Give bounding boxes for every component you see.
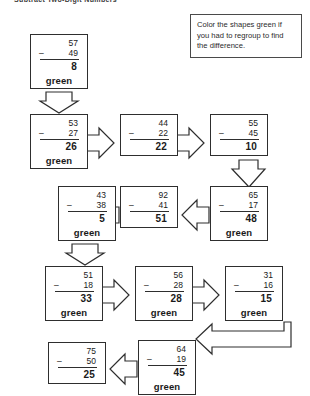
subtrahend: 19 <box>177 354 188 364</box>
problem-calculation: 31 – 16 15 <box>226 267 282 307</box>
arrow-down-p1-to-p2 <box>40 92 80 114</box>
calculation-rule <box>40 139 79 140</box>
problem-box-p12[interactable]: 75 – 50 25 <box>48 342 106 384</box>
problem-calculation: 75 – 50 25 <box>49 343 105 383</box>
minuend: 92 <box>128 190 170 200</box>
problem-calculation: 57 – 49 8 <box>31 35 87 75</box>
green-label: green <box>46 307 102 320</box>
minuend: 65 <box>218 190 260 200</box>
calculation-rule <box>130 139 169 140</box>
arrow-right-p3-to-p4 <box>177 126 205 162</box>
minuend: 44 <box>128 118 170 128</box>
subtraction-line: – 45 <box>218 128 260 138</box>
green-label: green <box>31 155 87 168</box>
green-label: green <box>136 307 192 320</box>
arrow-right-p2-to-p3 <box>87 126 115 162</box>
problem-box-p5[interactable]: 65 – 17 48 green <box>210 186 268 241</box>
subtraction-line: – 19 <box>146 354 188 364</box>
problem-calculation: 92 – 41 51 <box>121 187 177 227</box>
minuend: 53 <box>38 118 80 128</box>
problem-calculation: 64 – 19 45 <box>139 341 195 381</box>
calculation-rule <box>58 367 97 368</box>
problem-calculation: 44 – 22 22 <box>121 115 177 155</box>
subtraction-line: – 22 <box>128 128 170 138</box>
minuend: 64 <box>146 344 188 354</box>
subtrahend: 18 <box>84 280 95 290</box>
problem-calculation: 51 – 18 33 <box>46 267 102 307</box>
problem-calculation: 43 – 38 5 <box>59 187 115 227</box>
arrow-left-p11-to-p12 <box>110 352 138 388</box>
calculation-rule <box>55 291 94 292</box>
problem-calculation: 65 – 17 48 <box>211 187 267 227</box>
problem-box-p4[interactable]: 55 – 45 10 <box>210 114 268 156</box>
subtraction-line: – 41 <box>128 200 170 210</box>
problem-box-p2[interactable]: 53 – 27 26 green <box>30 114 88 169</box>
answer: 8 <box>38 61 80 73</box>
minuend: 51 <box>53 270 95 280</box>
calculation-rule <box>220 139 259 140</box>
minuend: 75 <box>56 346 98 356</box>
subtrahend: 28 <box>174 280 185 290</box>
minus-sign-icon: – <box>128 128 134 138</box>
answer: 10 <box>218 141 260 153</box>
minus-sign-icon: – <box>53 280 59 290</box>
calculation-rule <box>68 211 107 212</box>
calculation-rule <box>148 365 187 366</box>
subtrahend: 45 <box>249 128 260 138</box>
minuend: 57 <box>38 38 80 48</box>
subtrahend: 16 <box>264 280 275 290</box>
subtraction-line: – 27 <box>38 128 80 138</box>
calculation-rule <box>235 291 274 292</box>
answer: 15 <box>233 293 275 305</box>
problem-box-p8[interactable]: 51 – 18 33 green <box>45 266 103 321</box>
green-label: green <box>211 227 267 240</box>
arrow-down-p7-to-p8 <box>66 244 106 266</box>
subtraction-line: – 17 <box>218 200 260 210</box>
minus-sign-icon: – <box>143 280 149 290</box>
green-label: green <box>139 381 195 394</box>
page-title: Subtract Two-Digit Numbers <box>14 0 117 3</box>
green-label: green <box>59 227 115 240</box>
answer: 51 <box>128 213 170 225</box>
problem-box-p3[interactable]: 44 – 22 22 <box>120 114 178 156</box>
instructions-box: Color the shapes green if you had to reg… <box>190 14 302 58</box>
subtraction-line: – 16 <box>233 280 275 290</box>
minus-sign-icon: – <box>56 356 62 366</box>
minuend: 56 <box>143 270 185 280</box>
subtrahend: 27 <box>69 128 80 138</box>
minus-sign-icon: – <box>38 48 44 58</box>
calculation-rule <box>40 59 79 60</box>
answer: 26 <box>38 141 80 153</box>
minus-sign-icon: – <box>38 128 44 138</box>
problem-box-p1[interactable]: 57 – 49 8 green <box>30 34 88 89</box>
calculation-rule <box>220 211 259 212</box>
answer: 48 <box>218 213 260 225</box>
minus-sign-icon: – <box>233 280 239 290</box>
problem-box-p11[interactable]: 64 – 19 45 green <box>138 340 196 395</box>
minuend: 43 <box>66 190 108 200</box>
arrow-right-p8-to-p9 <box>102 278 130 314</box>
problem-box-p10[interactable]: 31 – 16 15 green <box>225 266 283 321</box>
answer: 28 <box>143 293 185 305</box>
subtraction-line: – 49 <box>38 48 80 58</box>
calculation-rule <box>145 291 184 292</box>
minus-sign-icon: – <box>146 354 152 364</box>
minuend: 55 <box>218 118 260 128</box>
problem-calculation: 53 – 27 26 <box>31 115 87 155</box>
problem-calculation: 55 – 45 10 <box>211 115 267 155</box>
answer: 45 <box>146 367 188 379</box>
arrow-left-p5-to-p6 <box>182 198 210 234</box>
green-label: green <box>31 75 87 88</box>
subtraction-line: – 50 <box>56 356 98 366</box>
minuend: 31 <box>233 270 275 280</box>
minus-sign-icon: – <box>218 128 224 138</box>
problem-box-p7[interactable]: 43 – 38 5 green <box>58 186 116 241</box>
worksheet-page: Subtract Two-Digit Numbers Color the sha… <box>0 0 310 396</box>
problem-box-p6[interactable]: 92 – 41 51 <box>120 186 178 228</box>
problem-box-p9[interactable]: 56 – 28 28 green <box>135 266 193 321</box>
minus-sign-icon: – <box>128 200 134 210</box>
calculation-rule <box>130 211 169 212</box>
green-label: green <box>226 307 282 320</box>
arrow-elbow-p10-to-p11 <box>196 322 292 356</box>
minus-sign-icon: – <box>66 200 72 210</box>
